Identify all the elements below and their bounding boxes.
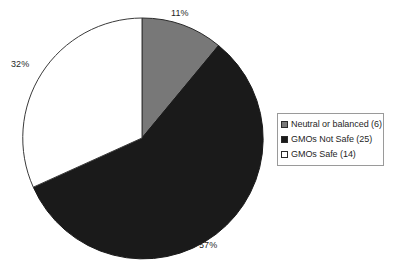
pie-percent-label-gmos-not-safe: 57% bbox=[199, 240, 217, 251]
pie-percent-label-gmos-safe: 32% bbox=[11, 59, 29, 70]
legend-swatch-icon bbox=[281, 136, 288, 143]
legend-item-gmos-not-safe[interactable]: GMOs Not Safe (25) bbox=[281, 132, 380, 146]
legend-item-label: GMOs Safe (14) bbox=[291, 149, 356, 160]
legend-swatch-icon bbox=[281, 121, 288, 128]
legend-item-gmos-safe[interactable]: GMOs Safe (14) bbox=[281, 147, 380, 161]
chart-legend: Neutral or balanced (6) GMOs Not Safe (2… bbox=[277, 113, 384, 166]
legend-item-label: GMOs Not Safe (25) bbox=[291, 134, 372, 145]
legend-item-label: Neutral or balanced (6) bbox=[291, 119, 382, 130]
legend-swatch-icon bbox=[281, 151, 288, 158]
pie-percent-label-neutral-or-balanced: 11% bbox=[171, 8, 189, 19]
pie-chart: 11% 57% 32% Neutral or balanced (6) GMOs… bbox=[0, 0, 399, 270]
legend-item-neutral-or-balanced[interactable]: Neutral or balanced (6) bbox=[281, 117, 380, 131]
